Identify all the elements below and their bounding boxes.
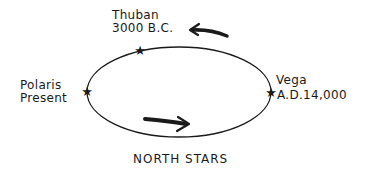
vega-name-label: Vega: [276, 74, 307, 87]
diagram-title: NORTH STARS: [133, 153, 228, 166]
star-vega-icon: ★: [265, 85, 277, 100]
star-polaris-icon: ★: [81, 84, 93, 99]
vega-era-label: A.D.14,000: [277, 89, 347, 102]
arrow-right-icon: [145, 117, 189, 131]
arrow-left-icon: [190, 24, 227, 36]
polaris-era-label: Present: [20, 92, 67, 105]
thuban-era-label: 3000 B.C.: [112, 22, 173, 35]
svg-text:★: ★: [265, 85, 277, 100]
svg-text:★: ★: [134, 43, 146, 58]
svg-text:★: ★: [81, 84, 93, 99]
star-thuban-icon: ★: [134, 43, 146, 58]
